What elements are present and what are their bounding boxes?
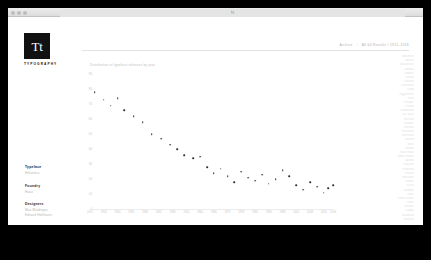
minimize-light[interactable] xyxy=(17,11,21,15)
index-list-item[interactable]: Trajan xyxy=(388,201,414,205)
scatter-point[interactable] xyxy=(110,105,112,107)
scatter-point[interactable] xyxy=(254,180,256,182)
scatter-point[interactable] xyxy=(247,177,249,179)
index-list-item[interactable]: Interstate xyxy=(388,134,414,138)
index-list-item[interactable]: Palatino xyxy=(388,163,414,167)
index-list-item[interactable]: Perpetua xyxy=(388,168,414,172)
filter-option[interactable]: Helvetica xyxy=(25,171,77,176)
filter-group-typeface: TypefaceHelvetica xyxy=(25,165,77,176)
index-list-item[interactable]: Folio xyxy=(388,97,414,101)
scatter-point[interactable] xyxy=(234,181,236,183)
scatter-point[interactable] xyxy=(213,172,215,174)
index-list-item[interactable]: News Gothic xyxy=(388,155,414,159)
index-list-item[interactable]: Optima xyxy=(388,159,414,163)
index-list-item[interactable]: Meta xyxy=(388,143,414,147)
scatter-point[interactable] xyxy=(133,115,135,117)
scatter-point[interactable] xyxy=(275,178,277,180)
index-list-item[interactable]: Rockwell xyxy=(388,176,414,180)
index-list-item[interactable]: Helvetica xyxy=(388,130,414,134)
index-list-item[interactable]: Windsor xyxy=(388,218,414,222)
scatter-point[interactable] xyxy=(160,138,162,140)
x-axis-tick-label: 1960 xyxy=(197,211,203,214)
filter-option[interactable]: Eduard Hoffmann xyxy=(25,213,77,218)
tab-title: Tt xyxy=(60,9,405,17)
index-list-item[interactable]: Centaur xyxy=(388,80,414,84)
window-controls[interactable] xyxy=(11,11,27,15)
scatter-point[interactable] xyxy=(151,133,153,135)
zoom-light[interactable] xyxy=(23,11,27,15)
index-list-item[interactable]: Egyptienne xyxy=(388,93,414,97)
index-list-item[interactable]: Clarendon xyxy=(388,84,414,88)
scatter-point[interactable] xyxy=(183,154,185,156)
index-list-item[interactable]: Gotham xyxy=(388,118,414,122)
index-list-item[interactable]: Walbaum xyxy=(388,214,414,218)
header-meta-left: Archive xyxy=(339,43,352,47)
index-list-item[interactable]: Bembo xyxy=(388,68,414,72)
index-list-item[interactable]: Utopia xyxy=(388,209,414,213)
browser-tab[interactable]: Tt xyxy=(60,9,405,17)
index-list-item[interactable]: Times xyxy=(388,193,414,197)
index-list-item[interactable]: Akzidenz xyxy=(388,55,414,59)
scatter-point[interactable] xyxy=(220,168,222,170)
typeface-index-list[interactable]: AkzidenzAvenirBaskervilleBemboBodoniCasl… xyxy=(388,55,414,221)
filter-group-title: Typeface xyxy=(25,165,77,169)
index-list-item[interactable]: Gill Sans xyxy=(388,113,414,117)
y-axis-tick-label: 30 xyxy=(89,162,92,166)
index-list-item[interactable]: Futura xyxy=(388,105,414,109)
scatter-point[interactable] xyxy=(169,144,171,146)
index-list-item[interactable]: Minion xyxy=(388,147,414,151)
scatter-point[interactable] xyxy=(192,157,194,159)
x-axis-tick-label: 1942 xyxy=(156,211,162,214)
x-axis: 1912191819241930193619421948195419601966… xyxy=(90,211,333,219)
scatter-point[interactable] xyxy=(289,175,291,177)
index-list-item[interactable]: Trade Gothic xyxy=(388,197,414,201)
index-list-item[interactable]: Plantin xyxy=(388,172,414,176)
index-list-item[interactable]: Grotesk xyxy=(388,126,414,130)
site-logo[interactable]: Tt TYPOGRAPHY xyxy=(24,33,72,66)
chart-caption: Distribution of typeface releases by yea… xyxy=(90,63,155,67)
scatter-point[interactable] xyxy=(94,91,96,93)
scatter-point[interactable] xyxy=(282,169,284,171)
index-list-item[interactable]: Granjon xyxy=(388,122,414,126)
scatter-point[interactable] xyxy=(302,189,304,191)
index-list-item[interactable]: Scala xyxy=(388,184,414,188)
scatter-point[interactable] xyxy=(206,166,208,168)
filter-option[interactable]: Haas xyxy=(25,190,77,195)
index-list-item[interactable]: Frutiger xyxy=(388,101,414,105)
scatter-point[interactable] xyxy=(268,183,270,185)
logo-mark-text: Tt xyxy=(32,40,43,53)
index-list-item[interactable]: Didot xyxy=(388,88,414,92)
scatter-point[interactable] xyxy=(103,99,105,101)
scatter-point[interactable] xyxy=(316,186,318,188)
chart-container: Distribution of typeface releases by yea… xyxy=(82,63,337,225)
scatter-point[interactable] xyxy=(124,109,126,111)
index-list-item[interactable]: Stempel xyxy=(388,189,414,193)
scatter-point[interactable] xyxy=(227,175,229,177)
header-divider xyxy=(82,50,409,51)
scatter-point[interactable] xyxy=(309,181,311,183)
scatter-point[interactable] xyxy=(323,192,325,194)
scatter-point[interactable] xyxy=(296,184,298,186)
close-light[interactable] xyxy=(11,11,15,15)
x-axis-tick-label: 1996 xyxy=(280,211,286,214)
index-list-item[interactable]: Avenir xyxy=(388,59,414,63)
scatter-point[interactable] xyxy=(328,187,330,189)
scatter-point[interactable] xyxy=(142,121,144,123)
index-list-item[interactable]: Jenson xyxy=(388,138,414,142)
index-list-item[interactable]: Bodoni xyxy=(388,72,414,76)
index-list-item[interactable]: Baskerville xyxy=(388,63,414,67)
scatter-point[interactable] xyxy=(261,174,263,176)
scatter-point[interactable] xyxy=(332,184,334,186)
scatter-point[interactable] xyxy=(199,156,201,158)
index-list-item[interactable]: Garamond xyxy=(388,109,414,113)
scatter-point[interactable] xyxy=(241,171,243,173)
index-list-item[interactable]: Neue Haas xyxy=(388,151,414,155)
logo-wordmark: TYPOGRAPHY xyxy=(24,62,72,66)
scatter-point[interactable] xyxy=(176,148,178,150)
scatter-point[interactable] xyxy=(117,97,119,99)
index-list-item[interactable]: Caslon xyxy=(388,76,414,80)
index-list-item[interactable]: Univers xyxy=(388,205,414,209)
index-list-item[interactable]: Sabon xyxy=(388,180,414,184)
x-axis-tick-label: 1972 xyxy=(225,211,231,214)
scatter-plot[interactable]: 9080706050403020100 xyxy=(90,74,333,209)
